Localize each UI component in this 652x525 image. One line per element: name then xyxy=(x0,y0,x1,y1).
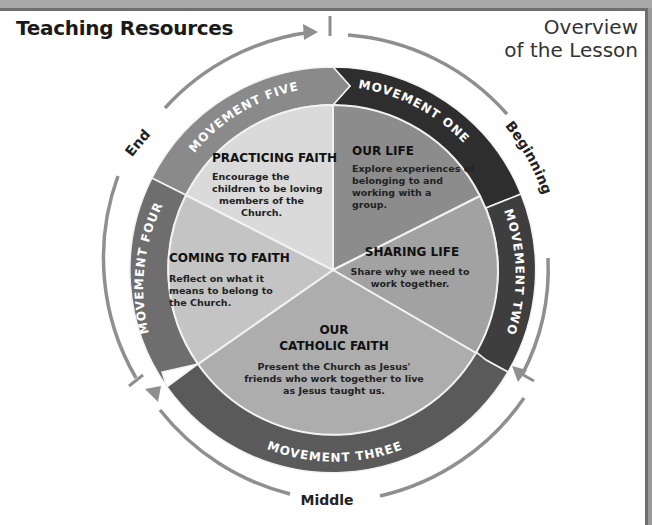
arrow-head-top xyxy=(303,24,318,40)
arrow-head-left xyxy=(145,386,161,402)
section-title: OUR LIFE xyxy=(352,144,414,158)
section-line: members of the xyxy=(219,195,304,206)
section-line: Share why we need to xyxy=(351,266,470,277)
section-line: Present the Church as Jesus' xyxy=(257,361,410,372)
section-line: children to be loving xyxy=(212,183,323,194)
section-line: Church. xyxy=(241,207,282,218)
section-line: the Church. xyxy=(169,297,231,308)
section-line: friends who work together to live xyxy=(244,373,424,384)
section-title: CATHOLIC FAITH xyxy=(279,339,389,353)
phase-end-label: End xyxy=(122,126,154,159)
lesson-cycle-diagram: MOVEMENT FIVE MOVEMENT ONE MOVEMENT TWO … xyxy=(0,0,652,525)
section-title: COMING TO FAITH xyxy=(169,251,290,265)
section-line: group. xyxy=(352,199,387,210)
section-line: means to belong to xyxy=(169,285,273,296)
section-line: belonging to and xyxy=(352,175,443,186)
section-title: OUR xyxy=(319,323,348,337)
section-line: working with a xyxy=(352,187,432,198)
phase-middle-label: Middle xyxy=(300,492,353,508)
section-line: as Jesus taught us. xyxy=(283,385,385,396)
section-line: work together. xyxy=(371,278,450,289)
section-title: SHARING LIFE xyxy=(365,245,459,259)
section-line: Reflect on what it xyxy=(169,273,264,284)
section-line: Encourage the xyxy=(212,171,290,182)
section-title: PRACTICING FAITH xyxy=(212,151,337,165)
section-line: Explore experiences of xyxy=(352,163,475,174)
